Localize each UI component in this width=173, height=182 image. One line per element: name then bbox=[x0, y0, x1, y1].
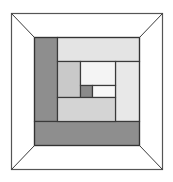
center-white-strip bbox=[93, 86, 116, 98]
bottom-center-gray bbox=[58, 98, 116, 122]
top-strip-light bbox=[58, 38, 140, 62]
log-cabin-diagram bbox=[0, 0, 173, 182]
left-middle-gray bbox=[58, 62, 81, 98]
top-center-pale bbox=[81, 62, 116, 86]
right-strip-light bbox=[116, 62, 140, 122]
center-dark-square bbox=[81, 86, 93, 98]
bottom-strip-dark bbox=[35, 122, 140, 146]
spiral-blocks bbox=[35, 38, 140, 146]
left-strip-dark bbox=[35, 38, 58, 122]
